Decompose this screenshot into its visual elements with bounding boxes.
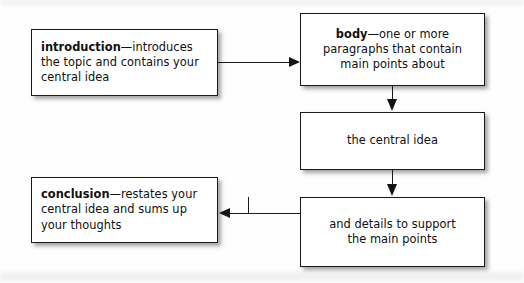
connector-details-to-conclusion-vline	[248, 197, 249, 214]
node-introduction-line3: central idea	[41, 70, 208, 85]
connector-body-to-central-idea-line	[392, 86, 393, 100]
node-conclusion-line1: restates your	[121, 187, 197, 201]
node-body-line1: one or more	[379, 27, 449, 41]
node-introduction-dash: —	[121, 40, 132, 54]
connector-central-idea-to-details-line	[392, 170, 393, 185]
node-body-line3: main points about	[310, 57, 475, 72]
node-body-lead: body	[336, 27, 368, 41]
node-details-line1: and details to support	[310, 217, 475, 232]
node-details-text: and details to support the main points	[301, 217, 484, 247]
diagram-canvas: introduction—introduces the topic and co…	[0, 0, 524, 283]
node-body-line2: paragraphs that contain	[310, 42, 475, 57]
node-details-line2: the main points	[310, 232, 475, 247]
node-central-idea-text: the central idea	[301, 133, 484, 148]
node-conclusion-line3: your thoughts	[41, 218, 208, 233]
node-conclusion-dash: —	[110, 187, 121, 201]
node-details[interactable]: and details to support the main points	[300, 197, 485, 267]
arrowhead-right-icon	[289, 57, 300, 67]
node-body-dash: —	[368, 27, 379, 41]
node-central-idea-line1: the central idea	[310, 133, 475, 148]
connector-introduction-to-body-line	[218, 62, 290, 63]
connector-details-to-conclusion-hline	[229, 213, 301, 214]
arrowhead-left-icon	[219, 208, 230, 218]
node-introduction-line1: introduces	[132, 40, 192, 54]
arrowhead-down-icon	[387, 184, 397, 196]
node-introduction-text: introduction—introduces the topic and co…	[32, 40, 217, 86]
node-introduction[interactable]: introduction—introduces the topic and co…	[31, 29, 218, 96]
scan-smudge-bottom	[0, 272, 524, 281]
node-conclusion-lead: conclusion	[41, 187, 110, 201]
node-conclusion-line2: central idea and sums up	[41, 202, 208, 217]
node-conclusion[interactable]: conclusion—restates your central idea an…	[31, 177, 218, 243]
node-conclusion-text: conclusion—restates your central idea an…	[32, 187, 217, 233]
scan-smudge-top	[0, 0, 524, 5]
arrowhead-down-icon	[387, 99, 397, 111]
node-central-idea[interactable]: the central idea	[300, 112, 485, 170]
node-introduction-line2: the topic and contains your	[41, 55, 208, 70]
node-body[interactable]: body—one or more paragraphs that contain…	[300, 13, 485, 86]
node-introduction-lead: introduction	[41, 40, 121, 54]
node-body-text: body—one or more paragraphs that contain…	[301, 27, 484, 73]
